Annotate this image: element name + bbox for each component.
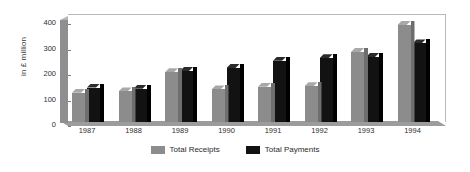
- x-axis-label-1989: 1989: [160, 126, 200, 135]
- x-axis-label-1992: 1992: [300, 126, 340, 135]
- bar-payments-1988: [134, 89, 147, 122]
- bar-payments-1987: [87, 88, 100, 122]
- bar-face: [165, 72, 178, 122]
- bar-group-1993: [351, 14, 398, 122]
- bar-receipts-1987: [72, 93, 85, 122]
- bar-chart-figure: in £ million 0100200300400 1987198819891…: [0, 0, 470, 172]
- bar-side: [240, 64, 244, 122]
- bar-group-1992: [305, 14, 352, 122]
- plot-area: 0100200300400 19871988198919901991199219…: [60, 14, 446, 126]
- bar-payments-1989: [180, 71, 193, 122]
- bar-face: [258, 87, 271, 122]
- bar-receipts-1994: [398, 25, 411, 122]
- bar-payments-1990: [227, 68, 240, 122]
- bar-face: [366, 57, 379, 122]
- bar-face: [180, 71, 193, 122]
- bar-side: [100, 84, 104, 122]
- bar-group-1991: [258, 14, 305, 122]
- x-axis-label-1990: 1990: [207, 126, 247, 135]
- y-tick-mark: [68, 50, 71, 51]
- legend-swatch-icon: [151, 146, 165, 154]
- legend-label: Total Receipts: [170, 145, 220, 154]
- bar-side: [286, 57, 290, 122]
- y-tick-label: 100: [30, 94, 56, 103]
- y-tick-mark: [68, 101, 71, 102]
- x-axis-label-1991: 1991: [253, 126, 293, 135]
- x-axis-label-1988: 1988: [114, 126, 154, 135]
- bar-face: [227, 68, 240, 122]
- bar-group-1987: [72, 14, 119, 122]
- bar-group-1990: [212, 14, 259, 122]
- y-tick-mark: [68, 24, 71, 25]
- bar-face: [119, 91, 132, 122]
- bar-face: [273, 61, 286, 122]
- bar-face: [413, 43, 426, 122]
- x-axis-label-1993: 1993: [346, 126, 386, 135]
- bar-receipts-1992: [305, 86, 318, 122]
- y-tick-mark: [68, 75, 71, 76]
- x-axis-label-1994: 1994: [393, 126, 433, 135]
- bar-face: [87, 88, 100, 122]
- bar-receipts-1991: [258, 87, 271, 122]
- bar-face: [398, 25, 411, 122]
- bar-payments-1991: [273, 61, 286, 122]
- bar-receipts-1989: [165, 72, 178, 122]
- y-axis-title: in £ million: [19, 12, 28, 102]
- bar-side: [426, 39, 430, 122]
- bar-face: [351, 52, 364, 122]
- bar-side: [193, 67, 197, 122]
- bar-face: [305, 86, 318, 122]
- bar-face: [212, 89, 225, 122]
- bar-side: [379, 53, 383, 122]
- bar-receipts-1990: [212, 89, 225, 122]
- bar-face: [134, 89, 147, 122]
- bar-side: [333, 54, 337, 122]
- legend-swatch-icon: [246, 146, 260, 154]
- bar-side: [147, 85, 151, 122]
- bar-receipts-1993: [351, 52, 364, 122]
- y-axis-wall: [60, 20, 68, 123]
- bar-face: [72, 93, 85, 122]
- bar-payments-1994: [413, 43, 426, 122]
- bar-receipts-1988: [119, 91, 132, 122]
- y-axis-wall-top: [60, 16, 68, 20]
- legend-item-payments[interactable]: Total Payments: [246, 145, 320, 154]
- x-axis-label-1987: 1987: [67, 126, 107, 135]
- bar-payments-1992: [320, 58, 333, 122]
- legend-item-receipts[interactable]: Total Receipts: [151, 145, 220, 154]
- bar-group-1994: [398, 14, 445, 122]
- bar-group-1989: [165, 14, 212, 122]
- y-tick-label: 0: [30, 120, 56, 129]
- y-tick-label: 200: [30, 69, 56, 78]
- bar-payments-1993: [366, 57, 379, 122]
- y-tick-label: 400: [30, 18, 56, 27]
- legend-label: Total Payments: [265, 145, 320, 154]
- bar-group-1988: [119, 14, 166, 122]
- bar-face: [320, 58, 333, 122]
- y-tick-label: 300: [30, 43, 56, 52]
- chart-legend: Total ReceiptsTotal Payments: [0, 145, 470, 154]
